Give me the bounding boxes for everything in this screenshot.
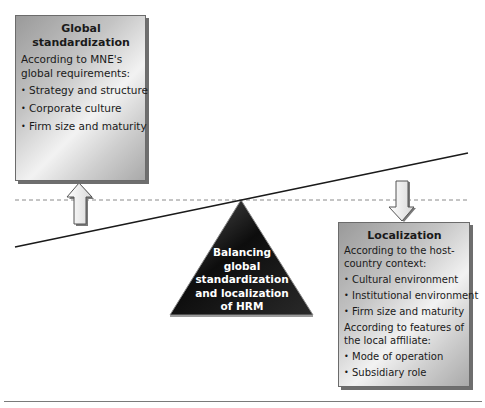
global-box-intro: According to MNE's global requirements:	[21, 52, 141, 80]
affiliate-intro: According to features of the local affil…	[344, 321, 465, 347]
fulcrum-label: Balancing global standardization and loc…	[190, 246, 294, 314]
list-item: •Institutional environment	[344, 289, 465, 302]
bullet-icon: •	[344, 289, 352, 302]
localization-box: Localization According to the host-count…	[338, 222, 470, 387]
list-item: •Firm size and maturity	[344, 305, 465, 318]
host-country-intro: According to the host-country context:	[344, 244, 465, 270]
bullet-icon: •	[21, 102, 29, 116]
list-item: •Mode of operation	[344, 350, 465, 363]
list-item: •Cultural environment	[344, 273, 465, 286]
global-factors-list: •Strategy and structure •Corporate cultu…	[21, 83, 141, 134]
up-arrow-icon	[67, 183, 94, 226]
bullet-icon: •	[21, 120, 29, 134]
global-standardization-box: Global standardization According to MNE'…	[15, 15, 146, 181]
balance-diagram: Global standardization According to MNE'…	[0, 0, 485, 408]
bullet-icon: •	[344, 305, 352, 318]
list-item: •Subsidiary role	[344, 366, 465, 379]
list-item: •Firm size and maturity	[21, 119, 141, 134]
bullet-icon: •	[344, 366, 352, 379]
bullet-icon: •	[344, 273, 352, 286]
global-box-title: Global standardization	[21, 22, 141, 50]
bullet-icon: •	[344, 350, 352, 363]
down-arrow-icon	[389, 181, 416, 222]
affiliate-factors-list: •Mode of operation •Subsidiary role	[344, 350, 465, 379]
list-item: •Corporate culture	[21, 101, 141, 116]
list-item: •Strategy and structure	[21, 83, 141, 98]
host-country-factors-list: •Cultural environment •Institutional env…	[344, 273, 465, 318]
bottom-divider	[4, 401, 482, 402]
bullet-icon: •	[21, 84, 29, 98]
local-box-title: Localization	[344, 229, 465, 242]
